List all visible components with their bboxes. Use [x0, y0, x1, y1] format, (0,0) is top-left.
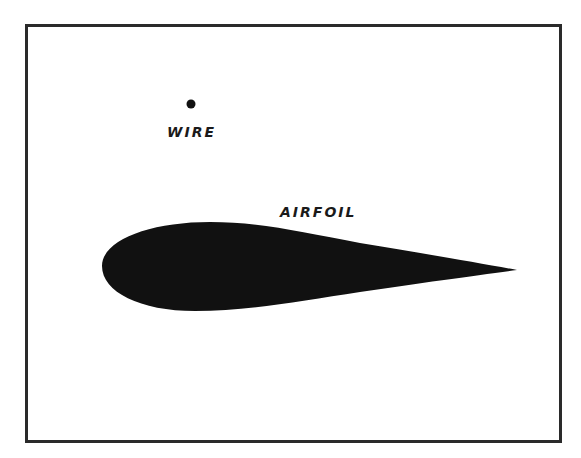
- diagram-scene: [0, 0, 581, 458]
- wire-dot: [187, 100, 196, 109]
- airfoil-shape: [102, 222, 517, 311]
- wire-label: WIRE: [167, 124, 216, 140]
- airfoil-label: AIRFOIL: [280, 204, 356, 220]
